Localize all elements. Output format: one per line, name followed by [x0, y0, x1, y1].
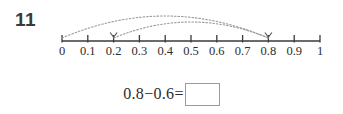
tick-label: 0.4	[157, 44, 173, 59]
tick-label: 0.5	[183, 44, 199, 59]
tick-label: 0.9	[286, 44, 302, 59]
arrowhead-icon	[110, 33, 117, 38]
arrowhead-icon	[265, 33, 272, 38]
equation-row: 0.8−0.6=	[0, 78, 343, 110]
tick-label: 0.1	[80, 44, 96, 59]
tick-label: 0.3	[132, 44, 148, 59]
tick-label: 0.8	[261, 44, 277, 59]
tick-label-row: 00.10.20.30.40.50.60.70.80.91	[0, 44, 343, 62]
exercise-container: 11 00.10.20.30.40.50.60.70.80.91 0.8−0.6…	[0, 0, 343, 114]
answer-input-box[interactable]	[185, 83, 220, 106]
tick-label: 1	[317, 44, 323, 59]
equation-expression: 0.8−0.6=	[123, 85, 183, 103]
tick-label: 0.2	[106, 44, 122, 59]
jump-arc-outer	[62, 16, 268, 38]
tick-label: 0.6	[209, 44, 225, 59]
tick-label: 0.7	[235, 44, 251, 59]
number-line-diagram: 00.10.20.30.40.50.60.70.80.91	[0, 0, 343, 64]
tick-label: 0	[59, 44, 65, 59]
